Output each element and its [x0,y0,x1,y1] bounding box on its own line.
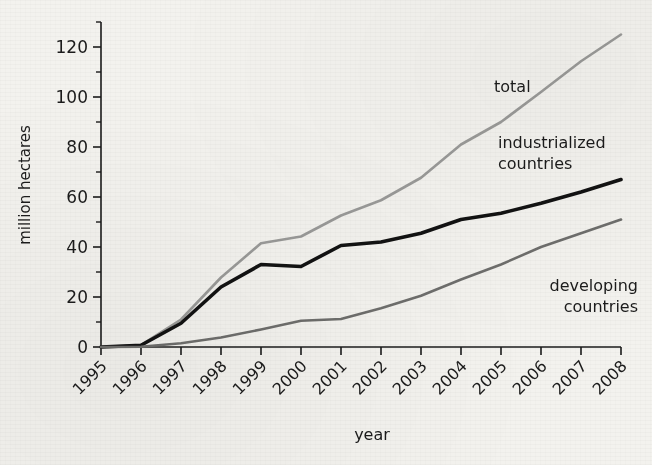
series-line-total [101,35,621,348]
series-line-developing-countries [101,220,621,348]
line-chart: 020406080100120 199519961997199819992000… [0,0,652,465]
x-tick-label: 1996 [109,356,151,398]
y-tick-label: 80 [66,137,88,157]
x-tick-label: 2006 [509,356,551,398]
x-tick-label: 1995 [69,356,111,398]
y-axis-ticks [93,22,101,347]
x-tick-label: 2001 [309,356,351,398]
data-series-group [101,35,621,348]
x-tick-label: 2003 [389,356,431,398]
x-tick-label: 2004 [429,356,471,398]
x-tick-label: 1998 [189,356,231,398]
x-tick-label: 2002 [349,356,391,398]
x-tick-label: 1997 [149,356,191,398]
y-tick-label: 60 [66,187,88,207]
x-axis-title: year [354,425,390,444]
x-tick-label: 2000 [269,356,311,398]
series-label-developing-line1: developing [550,276,638,295]
x-tick-label: 2008 [589,356,631,398]
x-axis-tick-labels: 1995199619971998199920002001200220032004… [69,356,631,398]
y-axis-title: million hectares [16,125,34,245]
chart-figure: 020406080100120 199519961997199819992000… [0,0,652,465]
series-label-industrialized-line2: countries [498,154,572,173]
x-tick-label: 1999 [229,356,271,398]
y-tick-label: 120 [56,37,88,57]
y-tick-label: 0 [77,337,88,357]
y-tick-label: 20 [66,287,88,307]
y-tick-label: 40 [66,237,88,257]
series-label-total: total [494,77,531,96]
y-axis-tick-labels: 020406080100120 [56,37,88,357]
series-label-industrialized-line1: industrialized [498,133,606,152]
x-tick-label: 2007 [549,356,591,398]
x-axis-ticks [101,347,621,355]
x-tick-label: 2005 [469,356,511,398]
series-label-developing-line2: countries [564,297,638,316]
y-tick-label: 100 [56,87,88,107]
